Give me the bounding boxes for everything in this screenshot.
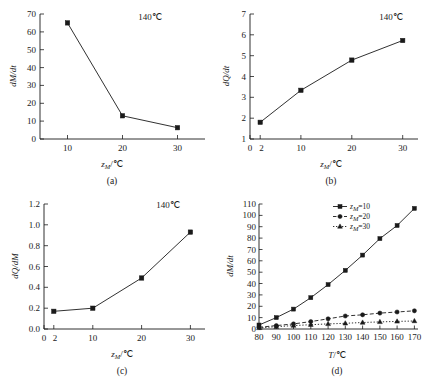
panel-d-ytick-4: 40 <box>247 279 257 289</box>
chart-panel-b: 140℃ 1 2 3 4 5 6 7 <box>213 0 426 190</box>
chart-panel-a: 140℃ 0 10 20 30 40 50 60 <box>0 0 213 190</box>
panel-b-caption: (b) <box>325 176 336 187</box>
legend-swatch-marker-1 <box>338 214 342 218</box>
panel-d-legend: zM=10 zM=20 zM=30 <box>333 202 370 232</box>
panel-a-ytick-3: 30 <box>27 80 37 90</box>
panel-d-y-axis-label: dM/dt <box>225 255 235 277</box>
panel-c-x-ticks: 0 2 10 20 30 <box>42 325 196 343</box>
panel-a-ytick-7: 70 <box>27 9 37 19</box>
panel-a-ytick-2: 20 <box>27 98 37 108</box>
panel-d-ytick-8: 80 <box>247 233 257 243</box>
panel-d-ytick-7: 70 <box>247 245 257 255</box>
panel-c-y-axis-label: dQ/dM <box>10 253 20 279</box>
panel-d-ytick-3: 30 <box>247 290 257 300</box>
panel-a-series-line <box>68 23 178 128</box>
legend-swatch-marker-2 <box>338 224 343 228</box>
panel-b-ytick-1: 2 <box>242 113 247 123</box>
panel-b-ytick-2: 3 <box>242 92 247 102</box>
legend-label-1: zM=20 <box>349 212 370 222</box>
chart-b-svg: 140℃ 1 2 3 4 5 6 7 <box>213 0 426 190</box>
panel-c-y-ticks: 0.0 0.2 0.4 0.6 0.8 1.0 1.2 <box>29 199 48 334</box>
panel-d-ytick-2: 20 <box>247 301 257 311</box>
panel-b-x-ticks: 0 2 10 20 30 <box>248 135 408 153</box>
svg-text:zM/℃: zM/℃ <box>100 159 122 170</box>
panel-b-ytick-5: 6 <box>242 30 247 40</box>
panel-b-ytick-4: 5 <box>242 51 247 61</box>
panel-a-y-axis-label: dM/dt <box>8 65 18 87</box>
panel-d-xtick-6: 140 <box>356 332 370 342</box>
panel-a-ytick-0: 0 <box>32 134 37 144</box>
panel-a-ytick-5: 50 <box>27 45 37 55</box>
panel-d-ytick-1: 10 <box>247 313 257 323</box>
panel-d-xtick-1: 90 <box>272 332 282 342</box>
panel-d-xlabel-unit: /℃ <box>333 350 346 360</box>
chart-d-svg: 0 10 20 30 40 50 60 70 80 90 100 110 <box>213 190 426 380</box>
panel-b-annotation: 140℃ <box>379 12 403 22</box>
panel-d-xtick-3: 110 <box>304 332 318 342</box>
panel-b-x-axis-label: zM/℃ <box>319 159 341 170</box>
panel-a-annotation: 140℃ <box>138 12 162 22</box>
panel-c-xtick-1: 2 <box>53 333 58 343</box>
panel-d-xtick-2: 100 <box>287 332 301 342</box>
panel-c-annotation: 140℃ <box>156 200 180 210</box>
legend-swatch-marker-0 <box>338 205 342 209</box>
panel-d-xtick-0: 80 <box>255 332 265 342</box>
panel-d-xtick-9: 170 <box>408 332 422 342</box>
panel-b-ytick-3: 4 <box>242 72 247 82</box>
panel-b-xtick-2: 10 <box>296 143 306 153</box>
panel-b-y-axis-label: dQ/dt <box>221 65 231 86</box>
panel-d-y-ticks: 0 10 20 30 40 50 60 70 80 90 100 110 <box>243 199 263 334</box>
panel-d-ytick-6: 60 <box>247 256 257 266</box>
panel-a-x-ticks: 10 20 30 <box>63 135 183 153</box>
panel-c-ytick-4: 0.8 <box>29 241 41 251</box>
svg-text:T/℃: T/℃ <box>328 350 346 360</box>
chart-a-svg: 140℃ 0 10 20 30 40 50 60 <box>0 0 213 190</box>
panel-a-xtick-0: 10 <box>63 143 73 153</box>
panel-a-xtick-2: 30 <box>173 143 183 153</box>
panel-d-x-ticks: 80 90 100 110 120 130 140 150 160 170 <box>255 326 422 343</box>
panel-d-xtick-4: 120 <box>321 332 335 342</box>
panel-a-markers <box>65 21 179 130</box>
chart-c-svg: 140℃ 0.0 0.2 0.4 0.6 0.8 1.0 1.2 <box>0 190 213 380</box>
panel-b-y-ticks: 1 2 3 4 5 6 7 <box>242 9 255 144</box>
panel-d-xtick-7: 150 <box>373 332 387 342</box>
panel-b-series-line <box>260 41 403 123</box>
panel-a-xtick-1: 20 <box>118 143 128 153</box>
panel-a-ytick-6: 60 <box>27 27 37 37</box>
panel-a-ytick-1: 10 <box>27 116 37 126</box>
panel-b-xlabel-unit: /℃ <box>329 159 342 169</box>
panel-b-ytick-6: 7 <box>242 9 247 19</box>
panel-c-caption: (c) <box>117 366 128 377</box>
panel-d-series-0-markers <box>257 206 416 327</box>
figure-panel-grid: 140℃ 0 10 20 30 40 50 60 <box>0 0 426 380</box>
panel-d-ytick-10: 100 <box>243 210 257 220</box>
panel-c-ytick-3: 0.6 <box>29 262 41 272</box>
panel-d-xtick-8: 160 <box>390 332 404 342</box>
chart-panel-d: 0 10 20 30 40 50 60 70 80 90 100 110 <box>213 190 426 380</box>
panel-d-ytick-11: 110 <box>243 199 257 209</box>
panel-a-xlabel-unit: /℃ <box>110 159 123 169</box>
panel-a-caption: (a) <box>107 176 118 187</box>
panel-d-series-0-line <box>259 208 414 325</box>
panel-c-ytick-2: 0.4 <box>29 282 41 292</box>
panel-c-xtick-2: 10 <box>88 333 98 343</box>
panel-c-ytick-1: 0.2 <box>29 303 40 313</box>
panel-a-x-axis-label: zM/℃ <box>100 159 122 170</box>
panel-a-ytick-4: 40 <box>27 63 37 73</box>
panel-d-series-1-line <box>259 311 414 328</box>
panel-b-xtick-0: 0 <box>248 143 253 153</box>
panel-c-ytick-5: 1.0 <box>29 220 41 230</box>
panel-d-caption: (d) <box>331 366 342 377</box>
panel-b-markers <box>258 38 405 124</box>
panel-c-markers <box>52 230 193 314</box>
svg-text:zM/℃: zM/℃ <box>110 349 132 360</box>
chart-panel-c: 140℃ 0.0 0.2 0.4 0.6 0.8 1.0 1.2 <box>0 190 213 380</box>
panel-c-xlabel-unit: /℃ <box>120 349 133 359</box>
panel-b-xtick-3: 20 <box>347 143 357 153</box>
panel-b-xtick-1: 2 <box>259 143 264 153</box>
panel-b-xtick-4: 30 <box>398 143 408 153</box>
panel-d-series-2-line <box>259 321 414 328</box>
panel-d-ytick-9: 90 <box>247 222 257 232</box>
panel-c-x-axis-label: zM/℃ <box>110 349 132 360</box>
legend-label-2: zM=30 <box>349 222 370 232</box>
